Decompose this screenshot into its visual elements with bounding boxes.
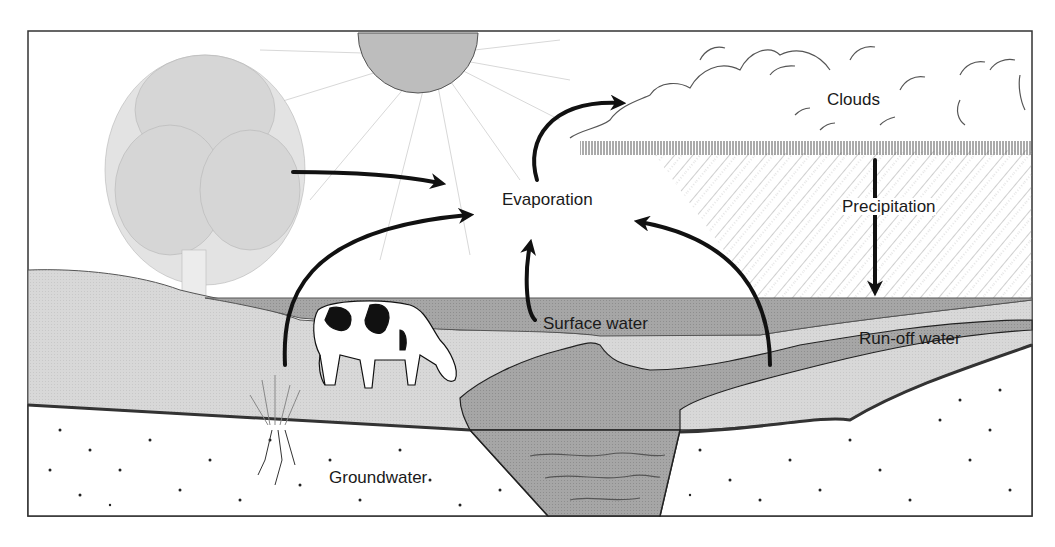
label-groundwater: Groundwater [329, 469, 427, 486]
label-evaporation: Evaporation [502, 191, 593, 208]
label-clouds: Clouds [827, 91, 880, 108]
water-cycle-diagram: Clouds Evaporation Precipitation Surface… [0, 0, 1055, 547]
label-precipitation: Precipitation [842, 198, 936, 215]
label-surface-water: Surface water [543, 315, 648, 332]
cloud-base [580, 141, 1032, 155]
label-runoff-water: Run-off water [859, 330, 961, 347]
